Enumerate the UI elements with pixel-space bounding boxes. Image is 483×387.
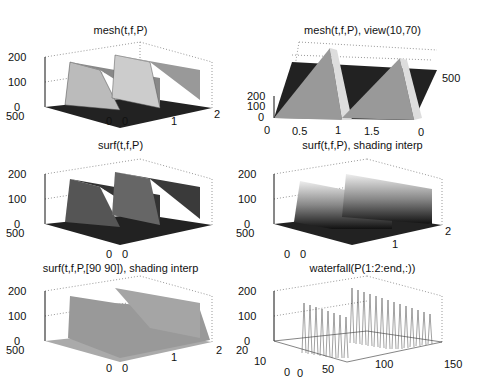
tick-label: 150 bbox=[444, 358, 462, 370]
tick-label: 200 bbox=[238, 285, 256, 297]
mesh-view-plot: 200 100 0 500 0 0 0.5 1 1.5 bbox=[242, 0, 483, 129]
tick-label: 100 bbox=[238, 193, 256, 205]
tick-label: 200 bbox=[8, 168, 26, 180]
tick-label: 20 bbox=[236, 344, 248, 356]
tick-label: 500 bbox=[6, 227, 24, 239]
surf-light-plot: 200 100 0 500 0 0 1 2 0 0 bbox=[0, 258, 241, 387]
tick-label: 100 bbox=[8, 76, 26, 88]
subplot-waterfall: waterfall(P(1:2:end,:)) 200 100 0 20 10 … bbox=[242, 258, 483, 387]
tick-label: 100 bbox=[8, 310, 26, 322]
tick-label: 500 bbox=[236, 227, 254, 239]
tick-label: 200 bbox=[8, 51, 26, 63]
subplot-surf-interp: surf(t,f,P), shading interp 200 100 0 50… bbox=[242, 129, 483, 258]
tick-label: 1 bbox=[171, 115, 177, 127]
tick-label: 0 bbox=[297, 367, 303, 379]
tick-label: 100 bbox=[8, 193, 26, 205]
tick-label: 0 bbox=[122, 248, 128, 260]
tick-label: 0 bbox=[122, 115, 128, 127]
tick-label: 0 bbox=[284, 248, 290, 260]
tick-label: 2 bbox=[214, 108, 220, 120]
tick-label: 500 bbox=[6, 110, 24, 122]
tick-label: 50 bbox=[322, 363, 334, 375]
tick-label: 100 bbox=[238, 310, 256, 322]
tick-label: 0 bbox=[258, 111, 264, 123]
tick-label: 1 bbox=[392, 238, 398, 250]
surf-interp-plot: 200 100 0 500 1 2 bbox=[242, 129, 483, 258]
surf-plot: 200 100 0 500 0 0 bbox=[0, 129, 241, 258]
tick-label: 2 bbox=[216, 344, 222, 356]
tick-label: 200 bbox=[238, 168, 256, 180]
tick-label: 0 bbox=[106, 362, 112, 374]
tick-label: 1 bbox=[171, 351, 177, 363]
subplot-mesh: mesh(t,f,P) 200 100 0 500 1 2 bbox=[0, 0, 241, 129]
tick-label: 200 bbox=[8, 285, 26, 297]
tick-label: 500 bbox=[442, 72, 460, 84]
subplot-surf-light: surf(t,f,P,[90 90]), shading interp 200 … bbox=[0, 258, 241, 387]
tick-label: 0 bbox=[284, 366, 290, 378]
tick-label: 500 bbox=[6, 344, 24, 356]
waterfall-plot: 200 100 0 20 10 0 0 50 100 150 0 0 bbox=[242, 258, 483, 387]
tick-label: 0 bbox=[106, 115, 112, 127]
tick-label: 0 bbox=[300, 248, 306, 260]
tick-label: 10 bbox=[254, 355, 266, 367]
subplot-surf: surf(t,f,P) 200 100 0 500 0 0 bbox=[0, 129, 241, 258]
tick-label: 0 bbox=[122, 362, 128, 374]
tick-label: 0 bbox=[106, 248, 112, 260]
subplot-mesh-view: mesh(t,f,P), view(10,70) 200 100 0 500 0… bbox=[242, 0, 483, 129]
tick-label: 100 bbox=[375, 358, 393, 370]
tick-label: 2 bbox=[445, 225, 451, 237]
mesh-plot: 200 100 0 500 1 2 bbox=[0, 0, 241, 129]
